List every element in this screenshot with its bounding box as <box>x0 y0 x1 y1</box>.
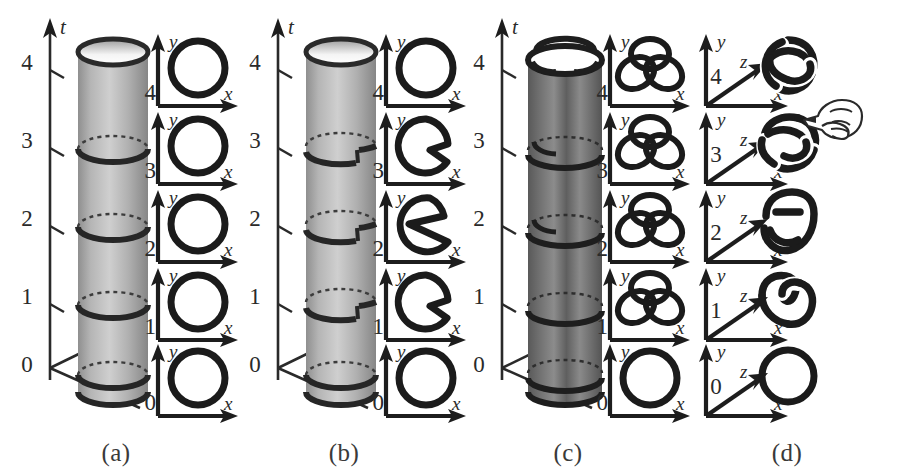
t-tick-3: 3 <box>21 128 33 153</box>
t-tick-1: 1 <box>473 284 485 309</box>
t-tick-0: 0 <box>21 352 33 377</box>
slice-axis-z: z <box>739 361 748 382</box>
cross-section-circle <box>171 351 225 405</box>
slice-time-label: 1 <box>145 314 157 339</box>
tube-body <box>528 62 602 405</box>
panel-d-graphic: y x z 4 <box>676 0 898 440</box>
slice-a-2: y x 2 <box>145 187 239 269</box>
tube-body <box>78 52 148 405</box>
slice-d-2: y x z 2 <box>699 187 814 269</box>
slice-axis-y: y <box>715 109 726 130</box>
slice-time-label: 2 <box>373 236 385 261</box>
panel-b-graphic: t 4 3 2 1 0 <box>228 0 460 440</box>
panel-a: t 4 3 2 1 0 <box>0 0 232 475</box>
slice-time-label: 0 <box>710 374 722 399</box>
panel-b: t 4 3 2 1 0 <box>228 0 460 475</box>
cross-section-circle <box>171 197 225 251</box>
tube-top-rim <box>78 39 148 65</box>
panel-c-label: (c) <box>452 439 684 467</box>
cross-section-circle <box>762 350 814 402</box>
t-tick-1: 1 <box>21 284 33 309</box>
slice-time-label: 2 <box>145 236 157 261</box>
slice-time-label: 1 <box>373 314 385 339</box>
panel-c: t 4 3 2 1 0 <box>452 0 684 475</box>
figure-root: t 4 3 2 1 0 <box>0 0 898 475</box>
cross-section-trefoil-3d <box>765 40 813 91</box>
panel-a-label: (a) <box>0 439 232 467</box>
world-tube-c <box>528 39 602 405</box>
slice-time-label: 0 <box>597 390 609 415</box>
slice-axis-y: y <box>619 109 630 130</box>
panel-d: y x z 4 <box>676 0 898 475</box>
t-tick-4: 4 <box>21 50 33 75</box>
tube-top-rim <box>306 39 376 65</box>
t-tick-4: 4 <box>473 50 485 75</box>
slice-axis-y: y <box>619 31 630 52</box>
slice-time-label: 3 <box>597 158 609 183</box>
slice-time-label: 4 <box>145 80 157 105</box>
slice-time-label: 3 <box>145 158 157 183</box>
slice-axis-y: y <box>619 265 630 286</box>
panel-a-graphic: t 4 3 2 1 0 <box>0 0 232 440</box>
slice-time-label: 4 <box>373 80 385 105</box>
world-tube-b <box>306 39 376 405</box>
slice-time-label: 2 <box>597 236 609 261</box>
cross-section-loop-one-crossing <box>762 276 813 325</box>
t-tick-2: 2 <box>473 206 485 231</box>
slice-a-1: y x 1 <box>145 265 239 347</box>
slice-time-label: 0 <box>145 390 157 415</box>
cross-section-circle <box>399 351 453 405</box>
t-tick-2: 2 <box>249 206 261 231</box>
slice-axis-y: y <box>715 31 726 52</box>
panel-d-label: (d) <box>676 439 898 467</box>
t-tick-4: 4 <box>249 50 261 75</box>
cross-section-notched-disc <box>398 275 448 329</box>
slice-axis-z: z <box>739 51 748 72</box>
slice-a-3: y x 3 <box>145 109 239 191</box>
cross-section-circle <box>171 41 225 95</box>
slice-a-4: y x 4 <box>145 31 239 113</box>
slice-time-label: 3 <box>373 158 385 183</box>
slice-time-label: 1 <box>710 298 722 323</box>
slice-d-1: y x z 1 <box>699 265 813 347</box>
slice-time-label: 4 <box>710 64 722 89</box>
slice-axis-y: y <box>715 265 726 286</box>
t-axis-label: t <box>60 15 67 39</box>
slice-d-3: y x z 3 <box>699 109 815 191</box>
t-tick-1: 1 <box>249 284 261 309</box>
cross-section-loop-two-crossings <box>764 192 814 250</box>
slice-axis-z: z <box>739 207 748 228</box>
slice-axis-y: y <box>619 187 630 208</box>
slice-time-label: 2 <box>710 220 722 245</box>
slice-time-label: 1 <box>597 314 609 339</box>
t-axis-label: t <box>288 15 295 39</box>
t-tick-2: 2 <box>21 206 33 231</box>
cross-section-circle <box>623 351 677 405</box>
slice-d-4: y x z 4 <box>699 31 814 113</box>
world-tube-a <box>78 39 148 405</box>
slice-a-0: y x 0 <box>145 341 239 423</box>
slice-axis-y: y <box>715 187 726 208</box>
slice-time-label: 4 <box>597 80 609 105</box>
slice-time-label: 3 <box>710 142 722 167</box>
cross-section-circle <box>399 41 453 95</box>
cross-section-spiral-cut-disc <box>400 198 448 252</box>
t-tick-0: 0 <box>249 352 261 377</box>
slice-d-0: y x z 0 <box>699 341 814 423</box>
slice-time-label: 0 <box>373 390 385 415</box>
slice-axis-z: z <box>739 285 748 306</box>
cross-section-notched-disc <box>398 119 448 173</box>
tube-knotted-top <box>528 39 602 74</box>
t-tick-3: 3 <box>473 128 485 153</box>
slice-axis-z: z <box>739 129 748 150</box>
t-tick-3: 3 <box>249 128 261 153</box>
panel-c-graphic: t 4 3 2 1 0 <box>452 0 684 440</box>
t-tick-0: 0 <box>473 352 485 377</box>
slice-axis-y: y <box>715 341 726 362</box>
panel-b-label: (b) <box>228 439 460 467</box>
cross-section-circle <box>171 275 225 329</box>
t-axis-label: t <box>512 15 519 39</box>
cross-section-circle <box>171 119 225 173</box>
